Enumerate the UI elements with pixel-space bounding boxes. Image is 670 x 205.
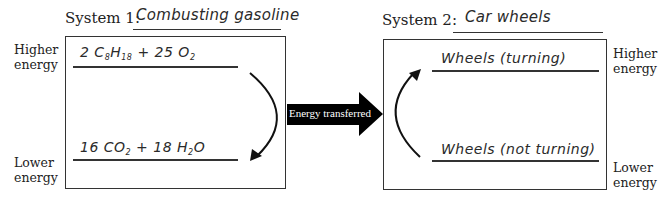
system2-name-underline — [453, 32, 603, 33]
system2-lower-energy-label: Lower energy — [613, 160, 657, 190]
system2-lower-level-line — [432, 160, 599, 162]
system2-lower-state: Wheels (not turning) — [441, 141, 596, 157]
system2-label: System 2: — [382, 11, 457, 29]
system2-higher-energy-label: Higher energy — [613, 46, 657, 76]
system2-higher-level-line — [432, 70, 599, 72]
higher-text: Higher — [613, 46, 657, 61]
lower-text: Lower — [613, 160, 657, 175]
energy-text: energy — [613, 175, 657, 190]
energy-transferred-label: Energy transferred — [289, 107, 371, 119]
energy-decrease-arrow-icon — [250, 73, 277, 161]
energy-text: energy — [613, 61, 657, 76]
system2-name: Car wheels — [465, 8, 551, 26]
system2-higher-state: Wheels (turning) — [441, 50, 566, 66]
